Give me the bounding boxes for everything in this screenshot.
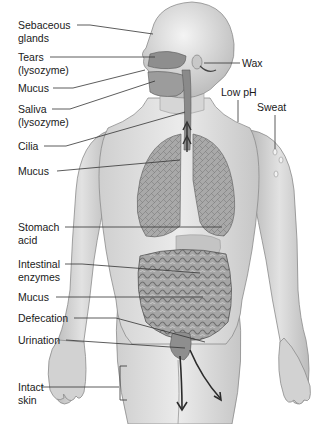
label-text: Intestinal xyxy=(18,258,60,271)
innate-barriers-diagram: Sebaceous glands Tears (lysozyme) Mucus … xyxy=(0,0,329,424)
label-urination: Urination xyxy=(18,334,60,347)
label-intact-skin: Intact skin xyxy=(18,381,44,406)
label-mucus-nasal: Mucus xyxy=(18,82,49,95)
label-text: enzymes xyxy=(18,271,60,284)
label-tears: Tears (lysozyme) xyxy=(18,51,69,76)
label-mucus-respiratory: Mucus xyxy=(18,165,49,178)
oral-cavity xyxy=(148,72,186,97)
left-hand xyxy=(48,340,86,401)
label-text: (lysozyme) xyxy=(18,64,69,77)
label-text: acid xyxy=(18,234,59,247)
label-mucus-intestinal: Mucus xyxy=(18,291,49,304)
label-saliva: Saliva (lysozyme) xyxy=(18,103,69,128)
label-text: Intact xyxy=(18,381,44,394)
label-text: Stomach xyxy=(18,221,59,234)
label-low-ph: Low pH xyxy=(221,86,257,99)
label-text: Urination xyxy=(18,334,60,347)
label-sweat: Sweat xyxy=(257,101,286,114)
label-text: Low pH xyxy=(221,86,257,99)
label-text: (lysozyme) xyxy=(18,116,69,129)
label-text: Saliva xyxy=(18,103,69,116)
label-text: Defecation xyxy=(18,312,68,325)
label-intestinal-enzymes: Intestinal enzymes xyxy=(18,258,60,283)
sweat-drop xyxy=(273,149,277,155)
label-defecation: Defecation xyxy=(18,312,68,325)
sweat-drop xyxy=(274,171,278,177)
sweat-drop xyxy=(279,157,283,163)
label-text: Sebaceous xyxy=(18,19,71,32)
label-text: Mucus xyxy=(18,165,49,178)
label-cilia: Cilia xyxy=(18,140,38,153)
label-text: glands xyxy=(18,32,71,45)
label-stomach-acid: Stomach acid xyxy=(18,221,59,246)
label-text: Mucus xyxy=(18,82,49,95)
label-sebaceous-glands: Sebaceous glands xyxy=(18,19,71,44)
label-text: Cilia xyxy=(18,140,38,153)
intestines xyxy=(138,249,232,340)
label-wax: Wax xyxy=(242,57,263,70)
nasal-cavity xyxy=(148,51,186,68)
label-text: Mucus xyxy=(18,291,49,304)
label-text: skin xyxy=(18,394,44,407)
label-text: Wax xyxy=(242,57,263,70)
label-text: Sweat xyxy=(257,101,286,114)
label-text: Tears xyxy=(18,51,69,64)
